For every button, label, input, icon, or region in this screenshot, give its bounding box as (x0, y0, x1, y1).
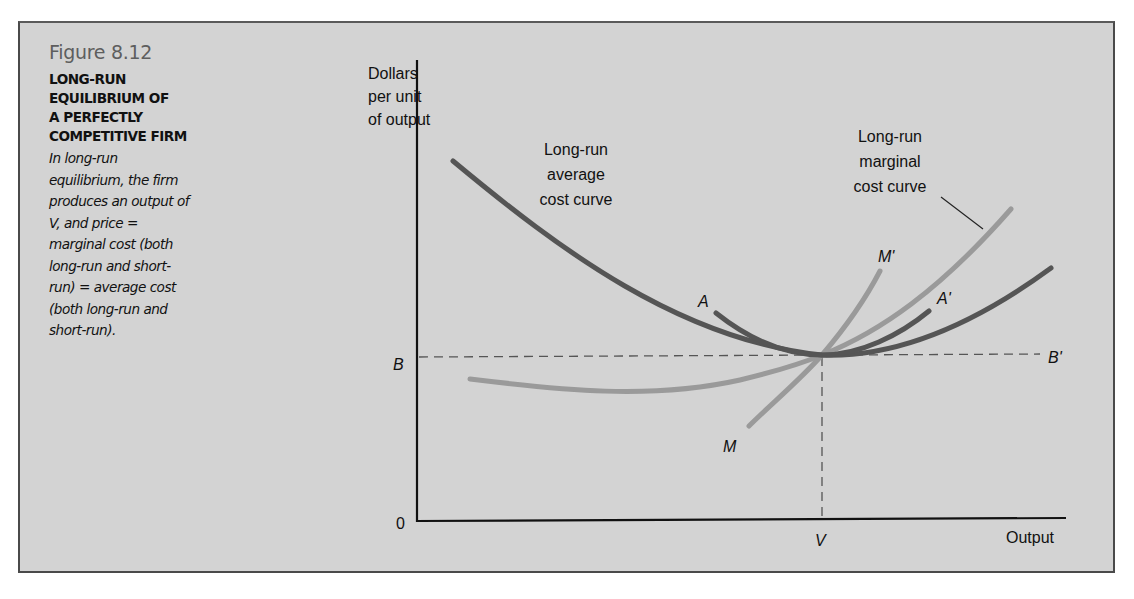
y-mark-b: B (393, 356, 404, 373)
label-m-prime: M' (878, 248, 895, 265)
x-axis-label: Output (1006, 529, 1055, 546)
lrac-label-line: Long-run (544, 141, 608, 158)
price-line-b (419, 354, 1040, 357)
lrmc-leader-line (941, 197, 983, 229)
y-axis-label-line: per unit (368, 88, 422, 105)
label-a: A (697, 293, 709, 310)
label-b-prime: B' (1048, 349, 1063, 366)
lrmc-label-line: Long-run (858, 128, 922, 145)
label-a-prime: A' (936, 290, 952, 307)
lrac-label-line: average (547, 166, 605, 183)
y-axis-label-line: Dollars (368, 65, 418, 82)
cost-curves-chart: Dollars per unit of output Long-run aver… (0, 0, 1134, 599)
y-axis-label-line: of output (368, 111, 431, 128)
x-mark-v: V (815, 532, 827, 549)
label-m: M (723, 438, 737, 455)
lrmc-label-line: marginal (859, 153, 920, 170)
lrmc-label-line: cost curve (854, 178, 927, 195)
origin-label: 0 (396, 515, 405, 532)
x-axis (416, 518, 1066, 521)
lrac-label-line: cost curve (540, 191, 613, 208)
